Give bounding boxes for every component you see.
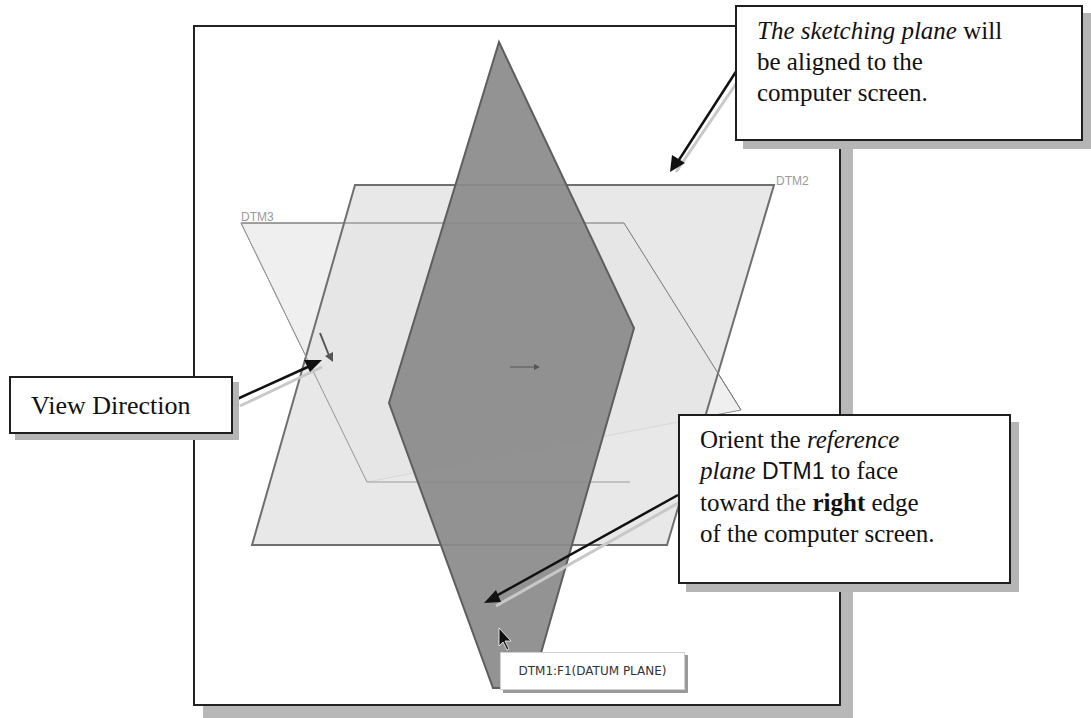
callout-line: be aligned to the: [757, 46, 1081, 77]
view-direction-callout: View Direction: [9, 376, 233, 434]
callout-line: The sketching plane will: [757, 15, 1081, 46]
callout-line: of the computer screen.: [700, 518, 1009, 549]
dtm1-plane[interactable]: [389, 42, 634, 688]
callout-line: Orient the reference: [700, 424, 1009, 455]
sketching-plane-callout: The sketching plane will be aligned to t…: [735, 5, 1083, 141]
datum-plane-tooltip: DTM1:F1(DATUM PLANE): [500, 652, 685, 690]
callout-line: computer screen.: [757, 77, 1081, 108]
callout-line: toward the right edge: [700, 487, 1009, 518]
leader-sketching-plane: [670, 70, 742, 172]
callout-line: plane DTM1 to face: [700, 455, 1009, 487]
dtm2-label: DTM2: [776, 174, 809, 188]
orient-reference-plane-callout: Orient the reference plane DTM1 to face …: [678, 414, 1011, 584]
dtm3-label: DTM3: [241, 210, 274, 224]
